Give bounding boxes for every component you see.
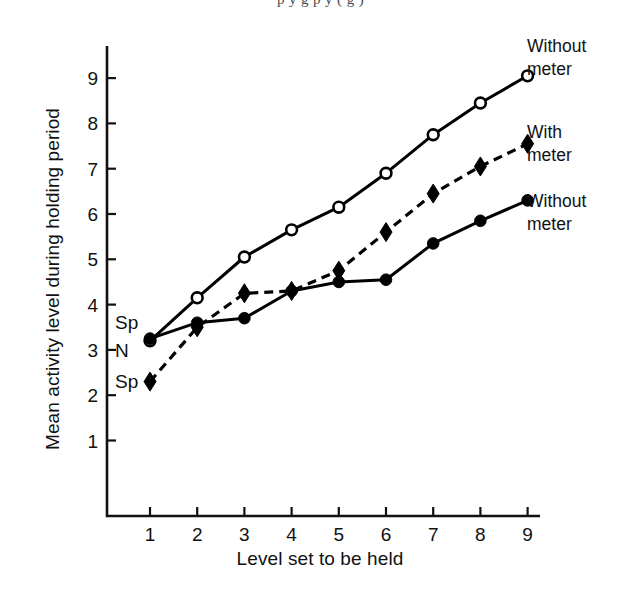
y-tick-label: 7 [87,159,98,180]
marker-open-circle [428,129,439,140]
legend-label-line1: Without [527,36,586,56]
y-tick-label: 3 [87,340,98,361]
marker-filled-circle [380,274,392,286]
marker-filled-circle [427,238,439,250]
marker-filled-circle [286,285,298,297]
chart-series-lines [150,76,528,382]
x-axis-ticks: 123456789 [145,507,533,545]
marker-filled-diamond [474,157,486,176]
chart-axes [107,46,540,516]
y-tick-label: 5 [87,249,98,270]
marker-filled-diamond [427,184,439,203]
y-tick-label: 6 [87,204,98,225]
marker-open-circle [239,252,250,263]
legend-label-line2: meter [527,59,572,79]
y-tick-label: 1 [87,431,98,452]
figure: p y g p y ( g ) Mean activity level duri… [0,0,641,594]
legend-label-line2: meter [527,214,572,234]
marker-open-circle [192,292,203,303]
x-tick-label: 3 [239,524,250,545]
x-tick-label: 7 [428,524,439,545]
marker-filled-circle [191,317,203,329]
annotation-sp-0: Sp [115,312,138,333]
marker-filled-circle [239,312,251,324]
y-tick-label: 8 [87,113,98,134]
chart-plot-area: 123456789 123456789 SpNSp WithoutmeterWi… [0,0,641,594]
marker-filled-diamond [238,284,250,303]
x-tick-label: 2 [192,524,203,545]
x-tick-label: 5 [334,524,345,545]
y-tick-label: 4 [87,295,98,316]
marker-filled-diamond [380,223,392,242]
axis-lines [107,46,540,516]
chart-legend: WithoutmeterWithmeterWithoutmeter [527,36,586,234]
x-tick-label: 1 [145,524,156,545]
x-tick-label: 6 [381,524,392,545]
legend-label-line2: meter [527,145,572,165]
x-tick-label: 4 [286,524,297,545]
y-tick-label: 2 [87,385,98,406]
x-axis-title: Level set to be held [110,548,530,570]
x-tick-label: 8 [475,524,486,545]
chart-annotations: SpNSp [115,312,138,392]
y-tick-label: 9 [87,68,98,89]
legend-label-line1: With [527,122,562,142]
chart-series-markers [144,70,534,391]
marker-filled-circle [475,215,487,227]
y-axis-title: Mean activity level during holding perio… [42,44,64,514]
marker-open-circle [333,202,344,213]
annotation-n-1: N [115,340,129,361]
legend-label-line1: Without [527,191,586,211]
marker-filled-circle [144,333,156,345]
page-bleed-text: p y g p y ( g ) [0,0,641,11]
annotation-sp-2: Sp [115,371,138,392]
y-axis-ticks: 123456789 [87,68,116,451]
x-tick-label: 9 [522,524,533,545]
marker-open-circle [475,98,486,109]
marker-open-circle [381,168,392,179]
marker-open-circle [286,224,297,235]
marker-filled-circle [333,276,345,288]
